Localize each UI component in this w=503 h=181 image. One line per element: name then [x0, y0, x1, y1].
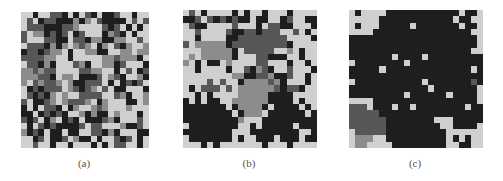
panel-image-c — [349, 10, 483, 148]
panel-image-b — [183, 10, 317, 148]
panel-caption-c: (c) — [395, 157, 435, 169]
panel-caption-a: (a) — [64, 157, 104, 169]
panel-image-a — [21, 12, 149, 148]
panel-caption-b: (b) — [229, 157, 269, 169]
